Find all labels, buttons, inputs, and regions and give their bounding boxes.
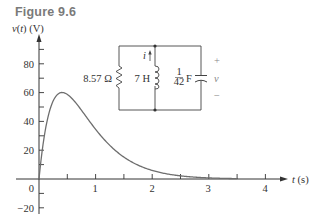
y-tick-label: −20	[18, 203, 34, 214]
x-axis-label: t (s)	[292, 174, 309, 186]
capacitor-denominator: 42	[174, 76, 185, 87]
voltage-curve	[39, 93, 237, 179]
x-axis-arrow-icon	[280, 177, 288, 182]
x-tick-label: 3	[205, 183, 210, 194]
capacitor-unit: F	[186, 73, 192, 84]
inductor-icon	[155, 66, 159, 89]
x-tick-label: 4	[262, 183, 268, 194]
chart: v(t) (V) t (s) 80 60 40 20 0 −20 1 2 3 4	[0, 0, 322, 219]
inductor-label: 7 H	[135, 73, 151, 84]
resistor-icon	[116, 66, 122, 88]
y-tick-label: 80	[24, 59, 35, 70]
voltage-label: v	[214, 73, 219, 84]
y-tick-label: 60	[24, 87, 35, 98]
y-ticks	[39, 49, 44, 207]
current-label: i	[143, 50, 146, 61]
x-tick-label: 1	[92, 183, 97, 194]
plus-sign: +	[214, 55, 220, 66]
minus-sign: −	[214, 90, 220, 101]
current-arrow-icon	[148, 50, 151, 55]
y-axis-label: v(t) (V)	[12, 23, 44, 35]
resistor-label: 8.57 Ω	[83, 73, 112, 84]
origin-label: 0	[29, 183, 34, 194]
y-tick-label: 20	[24, 145, 35, 156]
x-tick-label: 2	[149, 183, 154, 194]
circuit-diagram: 8.57 Ω 7 H i 1 42 F + v −	[83, 44, 220, 111]
y-tick-label: 40	[24, 116, 35, 127]
y-axis-arrow-icon	[37, 34, 42, 42]
